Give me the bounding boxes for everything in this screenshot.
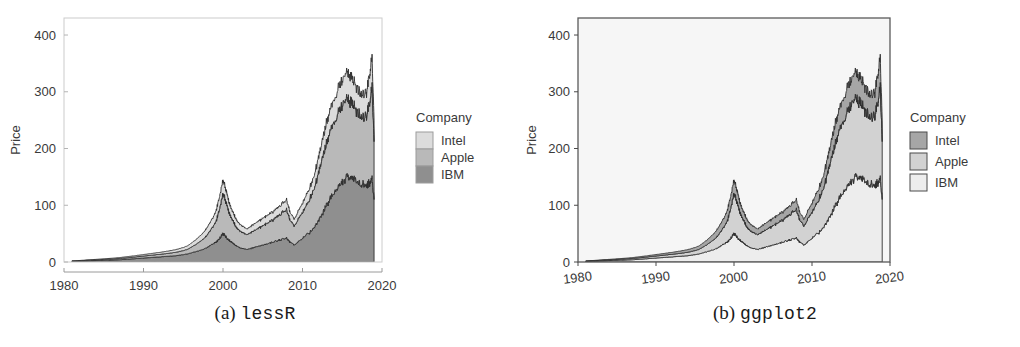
caption-a: (a) lessR [0, 302, 510, 324]
legend-swatch-intel[interactable] [910, 132, 927, 149]
y-tick-label: 300 [548, 84, 570, 99]
caption-a-label: (a) [215, 302, 236, 323]
legend-label-apple[interactable]: Apple [441, 150, 474, 165]
legend-swatch-apple[interactable] [910, 153, 927, 170]
y-tick-label: 0 [49, 255, 56, 270]
legend-label-ibm[interactable]: IBM [935, 175, 958, 190]
x-tick-label: 2010 [288, 278, 317, 293]
x-tick-label: 2020 [368, 278, 397, 293]
legend-label-intel[interactable]: Intel [935, 133, 960, 148]
y-tick-label: 400 [548, 28, 570, 43]
x-tick-label: 1990 [640, 268, 671, 286]
y-tick-label: 100 [548, 198, 570, 213]
y-tick-label: 300 [34, 84, 56, 99]
legend-title: Company [910, 110, 966, 125]
chart-b-svg: 010020030040019801990200020102020PriceCo… [510, 0, 1020, 300]
x-tick-label: 2020 [874, 268, 905, 286]
caption-b-name: ggplot2 [740, 304, 817, 324]
legend-swatch-ibm[interactable] [910, 174, 927, 191]
panel-b-ggplot2: 010020030040019801990200020102020PriceCo… [510, 0, 1020, 347]
legend-swatch-intel[interactable] [416, 132, 433, 149]
figure-two-panel-area-charts: 010020030040019801990200020102020PriceCo… [0, 0, 1020, 347]
y-tick-label: 100 [34, 198, 56, 213]
y-tick-label: 200 [34, 141, 56, 156]
caption-b-label: (b) [713, 302, 735, 323]
x-tick-label: 1980 [562, 268, 593, 286]
caption-b: (b) ggplot2 [510, 302, 1020, 324]
panel-a-lessR: 010020030040019801990200020102020PriceCo… [0, 0, 510, 347]
y-tick-label: 0 [563, 255, 570, 270]
legend-label-intel[interactable]: Intel [441, 133, 466, 148]
y-axis-label: Price [524, 125, 539, 155]
y-tick-label: 200 [548, 141, 570, 156]
x-tick-label: 1980 [50, 278, 79, 293]
x-tick-label: 2010 [796, 268, 827, 286]
x-tick-label: 2000 [718, 268, 749, 286]
x-tick-label: 1990 [129, 278, 158, 293]
legend-swatch-apple[interactable] [416, 149, 433, 166]
legend-label-apple[interactable]: Apple [935, 154, 968, 169]
chart-a-svg: 010020030040019801990200020102020PriceCo… [0, 0, 510, 300]
legend-title: Company [416, 110, 472, 125]
legend-swatch-ibm[interactable] [416, 166, 433, 183]
y-tick-label: 400 [34, 28, 56, 43]
x-tick-label: 2000 [209, 278, 238, 293]
legend-label-ibm[interactable]: IBM [441, 167, 464, 182]
caption-a-name: lessR [240, 304, 295, 324]
y-axis-label: Price [8, 125, 23, 155]
